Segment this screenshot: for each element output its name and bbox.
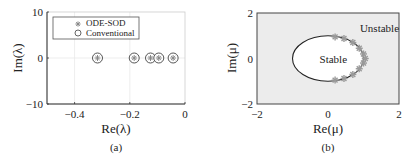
x-tick-label: 0	[182, 108, 188, 120]
panel-a: −0.4−0.20 −10010 ODE-SOD Conventional Re…	[10, 6, 188, 154]
x-axis-label: Re(λ)	[101, 121, 130, 136]
ode-sod-point	[156, 55, 162, 61]
y-ticks: −202	[241, 7, 253, 110]
eigenvalue-point	[332, 33, 339, 40]
legend-asterisk-icon	[75, 21, 80, 26]
ode-sod-point	[170, 55, 176, 61]
ode-sod-point	[148, 55, 154, 61]
eigenvalue-point	[356, 45, 363, 52]
y-ticks: −10010	[26, 6, 49, 110]
figure: −0.4−0.20 −10010 ODE-SOD Conventional Re…	[0, 0, 412, 162]
y-tick-label: 0	[38, 52, 44, 64]
eigenvalue-point	[349, 39, 356, 46]
legend-label-conventional: Conventional	[86, 28, 135, 38]
x-ticks: −202	[251, 108, 402, 120]
caption-b: (b)	[322, 141, 335, 154]
x-tick-label: 0	[325, 108, 331, 120]
ode-sod-point	[131, 55, 137, 61]
eigenvalue-point	[349, 71, 356, 78]
eigenvalue-point	[360, 60, 367, 67]
x-tick-label: −0.4	[65, 108, 85, 120]
x-tick-label: −0.2	[120, 108, 140, 120]
eigenvalue-point	[340, 35, 347, 42]
ode-sod-point	[95, 55, 101, 61]
x-axis-label: Re(μ)	[313, 121, 343, 136]
y-axis-label: Im(μ)	[224, 43, 239, 73]
y-tick-label: 2	[248, 7, 254, 19]
x-tick-label: 2	[396, 108, 402, 120]
y-tick-label: −2	[241, 98, 253, 110]
panel-b: −202 −202 Stable Unstable Re(μ) Im(μ) (b…	[224, 7, 402, 154]
legend-asterisk-marker	[75, 21, 80, 26]
y-tick-label: 0	[248, 53, 254, 65]
y-axis-label: Im(λ)	[10, 43, 25, 72]
caption-a: (a)	[110, 141, 123, 154]
legend-label-ode-sod: ODE-SOD	[86, 18, 126, 28]
x-ticks: −0.4−0.20	[65, 102, 189, 120]
y-tick-label: 10	[32, 6, 44, 18]
legend: ODE-SOD Conventional	[53, 17, 139, 39]
eigenvalue-point	[340, 75, 347, 82]
eigenvalue-point	[356, 65, 363, 72]
unstable-label: Unstable	[360, 22, 399, 34]
y-tick-label: −10	[26, 98, 44, 110]
eigenvalue-point	[332, 77, 339, 84]
stable-label: Stable	[320, 53, 348, 65]
